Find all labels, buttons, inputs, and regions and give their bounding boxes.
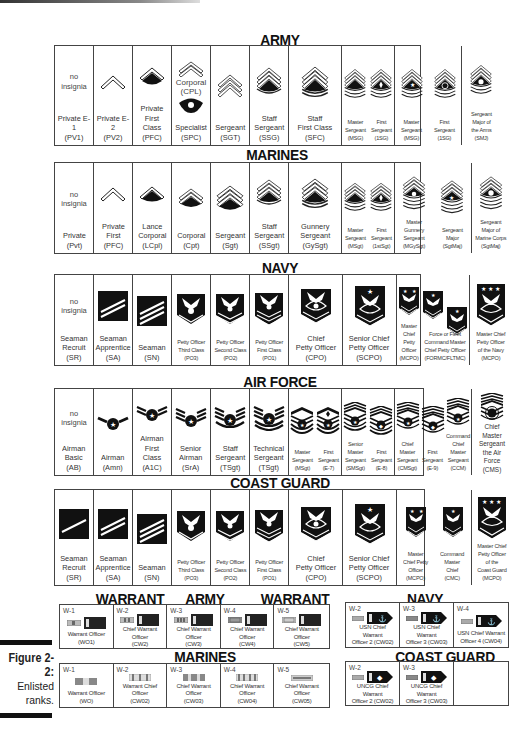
- svg-text:⚓: ⚓: [432, 614, 441, 623]
- chevron-rocker-icon: [139, 66, 165, 88]
- warrant-bar-icon: [228, 617, 242, 623]
- warrant-grade: W-5: [277, 666, 326, 673]
- warrant-label: UNCG Chief Warrant Officer 3 (CW03): [403, 683, 450, 706]
- rank-label: Sergeant Major of the Arms (SMJ): [471, 110, 492, 142]
- svg-text:★: ★: [110, 421, 116, 428]
- seaman-stripes-icon: [137, 514, 167, 544]
- warrant-bar-icon: [236, 674, 258, 681]
- rank-cell: Private First (PFC): [94, 163, 132, 253]
- corporal-label: Corporal (CPL): [176, 78, 207, 96]
- rank-label: Seaman (SN): [138, 343, 165, 362]
- svg-text:◆: ◆: [431, 423, 435, 429]
- chevron-icon: [100, 73, 126, 91]
- svg-text:★: ★: [149, 412, 155, 419]
- warrant-grade: W-2: [117, 666, 164, 673]
- rank-cell: no insignia Airman Basic (AB): [55, 389, 93, 475]
- warrant-label: UNCG Chief Warrant Officer 2 (CW02): [349, 683, 396, 706]
- warrant-grade: W-2: [349, 664, 396, 671]
- rank-label: Command Master Chief (CMC): [440, 550, 464, 582]
- rank-cell: ★ Command Master Chief (CMC): [434, 490, 471, 585]
- warrant-label: Warrant Officer (WO): [63, 690, 110, 705]
- af-first-sergeant-icon: ★: [316, 406, 340, 436]
- rank-label: Master Sergeant (MSgt): [345, 226, 366, 250]
- warrant-label: Warrant Chief Officer (CW02): [117, 683, 164, 706]
- rank-label: Seaman Apprentice (SA): [95, 554, 130, 583]
- svg-text:★: ★: [367, 288, 373, 295]
- rank-label: Chief Petty Officer (CPO): [295, 554, 335, 583]
- warrant-cell: W-3 ◆ UNCG Chief Warrant Officer 3 (CW03…: [400, 662, 454, 705]
- warrant-grade: W-1: [63, 666, 110, 673]
- af-senior-nco-icon: ★: [290, 406, 314, 436]
- rank-label: Petty Officer Second Class (PO2): [214, 558, 246, 582]
- warrant-cell: W-1 Warrant Officer (WO): [60, 664, 114, 707]
- rank-cell: Petty Officer First Class (PO1): [250, 275, 288, 365]
- rank-label: Staff Sergeant (SSgt): [254, 222, 284, 251]
- chevron-rocker-rifles-icon: [300, 178, 330, 210]
- svg-text:⚓: ⚓: [378, 614, 387, 623]
- rank-cell: ★ Staff Sergeant (TSgt): [211, 389, 249, 475]
- no-insignia-text: no insignia: [61, 190, 86, 209]
- rank-label: Petty Officer First Class (PO1): [255, 558, 283, 582]
- rank-label: Staff First Class (SFC): [298, 114, 333, 143]
- rank-label: Master Chief Petty Officer (MCPO): [399, 322, 419, 362]
- rank-cell: ★ Sergeant Major (SgtMaj): [433, 163, 471, 253]
- svg-text:★: ★: [496, 499, 501, 505]
- rank-cell: Staff Sergeant (SSG): [250, 46, 288, 145]
- rank-label: Private First (PFC): [102, 222, 125, 251]
- army-rank-table: no insignia Private E-1 (PV1) Private E-…: [54, 45, 421, 146]
- navy-warrant-table: W-2 ⚓ USN Chief Warrant Officer 2 (CW02)…: [345, 602, 509, 648]
- rank-label: First Sergeant (E-9): [422, 448, 443, 472]
- rank-label: Master Chief Petty Officer of the Navy (…: [476, 330, 505, 362]
- airman-stripes-icon: ★: [253, 405, 285, 431]
- warrant-grade: W-3: [170, 666, 217, 673]
- rank-label: First Sergeant (E-8): [371, 448, 392, 472]
- rank-cell: ★ Airman (Amn): [94, 389, 132, 475]
- warrant-bar-icon: [120, 617, 134, 623]
- chevron-icon: [178, 61, 204, 77]
- warrant-bar-icon: [75, 678, 97, 685]
- navy-rank-table: no insignia Seaman Recruit (SR) Seaman A…: [54, 274, 421, 366]
- section-title-warrant-navy-left: WARRANT: [254, 590, 337, 607]
- svg-text:★: ★: [495, 286, 500, 292]
- chevron-diamond-icon: [369, 182, 393, 212]
- rank-label: Corporal (Cpt): [177, 231, 205, 250]
- chevron-star-icon: ★: [400, 68, 424, 100]
- rank-cell: ★ Chief Master Sergeant (CMSgt): [395, 389, 420, 475]
- warrant-grade: W-3: [403, 664, 450, 671]
- rank-label: Staff Sergeant (SSG): [254, 114, 284, 143]
- rank-cell: Seaman Apprentice (SA): [94, 275, 132, 365]
- warrant-grade: W-4: [224, 607, 271, 614]
- rank-cell: ★★★ Master Chief Petty Officer of the Co…: [472, 490, 512, 585]
- rank-cell: ◆ First Sergeant (E-8): [368, 389, 394, 475]
- rank-label: Master Sergeant (MSG): [345, 118, 366, 142]
- airman-stripes-icon: ★: [97, 415, 129, 431]
- rank-label: Senior Airman (SrA): [179, 444, 202, 473]
- svg-text:★: ★: [367, 506, 373, 513]
- warrant-grade: W-3: [403, 605, 450, 612]
- coast-guard-rank-table: Seaman Recruit (SR) Seaman Apprentice (S…: [54, 489, 425, 586]
- rank-cell: ★ Master Sergeant (MSgt): [289, 389, 315, 475]
- rank-label: Private E-1 (PV1): [57, 114, 90, 143]
- warrant-label: Warrant Officer (WO1): [63, 631, 110, 646]
- rank-label: Seaman Apprentice (SA): [95, 334, 130, 363]
- af-cmsaf-icon: [480, 393, 504, 423]
- master-chief-icon: ★★: [405, 506, 427, 538]
- rank-label: First Sergeant (1SG): [371, 118, 392, 142]
- rank-cell: ★ Senior Master Sergeant (SMSgt): [342, 389, 368, 475]
- seaman-stripes-icon: [59, 509, 89, 539]
- warrant-cell: W-3 Chief Warrant Officer (CW03): [167, 664, 221, 707]
- chevron-diamond-icon: [369, 68, 393, 100]
- rank-cell: ★ Senior Airman (SrA): [172, 389, 210, 475]
- warrant-label: Chief Warrant Officer (CW04): [224, 683, 271, 706]
- warrant-bar-icon: [406, 675, 418, 680]
- warrant-bar-icon: [174, 617, 188, 623]
- warrant-bar-dark-icon: [299, 614, 321, 626]
- caption-rule-top: [0, 640, 52, 645]
- rank-cell: no insignia Private E-1 (PV1): [55, 46, 93, 145]
- warrant-bar-icon: [67, 620, 81, 626]
- warrant-grade: W-4: [457, 605, 505, 612]
- warrant-bar-icon: [406, 616, 418, 621]
- rank-cell: Seaman (SN): [133, 490, 171, 585]
- rank-label: Master Sergeant (MSgt): [292, 448, 313, 472]
- chevron-eagle-icon: [469, 64, 493, 96]
